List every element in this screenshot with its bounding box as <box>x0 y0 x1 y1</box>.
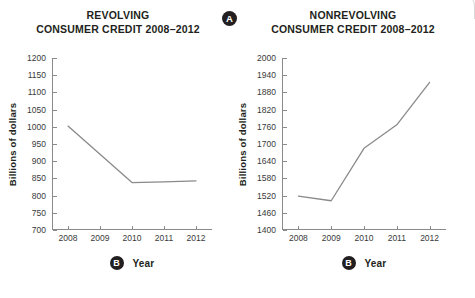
y-tick-label: 850 <box>32 174 46 183</box>
x-tick-mark <box>68 226 69 230</box>
y-tick-label: 1580 <box>257 174 276 183</box>
y-tick-mark <box>53 144 57 145</box>
y-tick-mark <box>283 92 287 93</box>
series-line-revolving <box>52 58 212 230</box>
series-line-nonrevolving <box>282 58 446 230</box>
x-tick-mark <box>331 226 332 230</box>
chart-panel-nonrevolving: NONREVOLVING CONSUMER CREDIT 2008–2012 B… <box>235 0 471 298</box>
y-tick-label: 800 <box>32 191 46 200</box>
x-tick-label: 2008 <box>289 234 308 243</box>
y-tick-mark <box>283 58 287 59</box>
y-tick-mark <box>53 110 57 111</box>
y-tick-mark <box>283 161 287 162</box>
y-tick-label: 1000 <box>27 123 46 132</box>
y-tick-label: 1520 <box>257 191 276 200</box>
y-tick-label: 1820 <box>257 105 276 114</box>
x-tick-mark <box>100 226 101 230</box>
x-axis-title-nonrevolving: B Year <box>282 256 446 270</box>
y-tick-mark <box>53 196 57 197</box>
y-tick-label: 1940 <box>257 71 276 80</box>
callout-badge-a: A <box>222 11 237 26</box>
x-tick-label: 2009 <box>91 234 110 243</box>
y-tick-mark <box>283 213 287 214</box>
x-tick-mark <box>196 226 197 230</box>
y-tick-mark <box>283 127 287 128</box>
y-tick-label: 1700 <box>257 140 276 149</box>
y-tick-mark <box>283 110 287 111</box>
y-tick-mark <box>283 144 287 145</box>
y-tick-mark <box>53 230 57 231</box>
plot-area-revolving: 7007508008509009501000105011001150120020… <box>52 58 212 230</box>
y-tick-mark <box>53 127 57 128</box>
y-tick-mark <box>283 230 287 231</box>
y-tick-mark <box>283 196 287 197</box>
y-tick-label: 1100 <box>28 88 46 97</box>
x-tick-mark <box>164 226 165 230</box>
y-tick-mark <box>283 75 287 76</box>
y-tick-mark <box>53 92 57 93</box>
x-tick-label: 2011 <box>388 234 406 243</box>
x-tick-label: 2011 <box>155 234 173 243</box>
y-tick-label: 1880 <box>257 88 276 97</box>
y-tick-mark <box>53 58 57 59</box>
chart-title-line2: CONSUMER CREDIT 2008–2012 <box>235 22 471 36</box>
chart-title-revolving: REVOLVING CONSUMER CREDIT 2008–2012 <box>0 8 236 36</box>
x-tick-label: 2010 <box>123 234 142 243</box>
x-tick-mark <box>298 226 299 230</box>
x-tick-mark <box>430 226 431 230</box>
y-tick-mark <box>53 213 57 214</box>
callout-badge-b: B <box>342 256 356 270</box>
x-axis-title-text: Year <box>133 258 155 269</box>
y-tick-label: 1460 <box>257 209 276 218</box>
y-tick-label: 900 <box>32 157 46 166</box>
chart-title-line2: CONSUMER CREDIT 2008–2012 <box>0 22 236 36</box>
y-tick-label: 950 <box>32 140 46 149</box>
x-tick-label: 2012 <box>187 234 206 243</box>
y-tick-mark <box>53 161 57 162</box>
x-axis-title-text: Year <box>365 258 387 269</box>
x-tick-label: 2009 <box>322 234 341 243</box>
x-tick-label: 2012 <box>420 234 439 243</box>
y-tick-label: 1400 <box>257 226 276 235</box>
y-tick-label: 1760 <box>257 123 276 132</box>
x-tick-mark <box>132 226 133 230</box>
y-tick-label: 2000 <box>257 54 276 63</box>
chart-title-line1: NONREVOLVING <box>310 9 397 21</box>
y-axis-title-revolving: Billions of dollars <box>6 58 20 230</box>
x-tick-label: 2008 <box>59 234 78 243</box>
y-tick-label: 750 <box>32 209 46 218</box>
y-tick-label: 1050 <box>27 105 46 114</box>
x-tick-mark <box>397 226 398 230</box>
y-tick-label: 700 <box>32 226 46 235</box>
y-tick-mark <box>53 178 57 179</box>
x-tick-mark <box>364 226 365 230</box>
y-tick-mark <box>283 178 287 179</box>
plot-area-nonrevolving: 1400146015201580164017001760182018801940… <box>282 58 446 230</box>
chart-title-nonrevolving: NONREVOLVING CONSUMER CREDIT 2008–2012 <box>235 8 471 36</box>
y-tick-label: 1150 <box>28 71 46 80</box>
chart-panel-revolving: REVOLVING CONSUMER CREDIT 2008–2012 Bill… <box>0 0 236 298</box>
x-tick-label: 2010 <box>355 234 374 243</box>
x-axis-title-revolving: B Year <box>52 256 212 270</box>
y-tick-label: 1200 <box>27 54 46 63</box>
callout-badge-b: B <box>110 256 124 270</box>
y-tick-label: 1640 <box>257 157 276 166</box>
chart-title-line1: REVOLVING <box>87 9 150 21</box>
y-tick-mark <box>53 75 57 76</box>
y-axis-title-nonrevolving: Billions of dollars <box>236 58 250 230</box>
